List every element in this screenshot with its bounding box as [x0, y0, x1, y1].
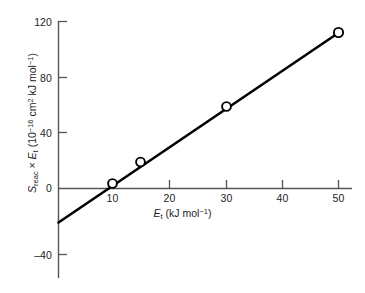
x-axis-title: Et (kJ mol−1)	[0, 207, 365, 221]
y-axis-times-sign: ×	[26, 159, 38, 171]
y-axis-units-exponent-16: −16	[26, 119, 35, 132]
data-point-marker	[334, 28, 343, 37]
y-axis-subscript-reac: reac	[31, 171, 40, 186]
y-axis-units-open: (10	[26, 132, 38, 150]
y-axis-symbol-e: E	[26, 152, 38, 159]
plot-canvas	[0, 0, 365, 293]
data-point-marker	[222, 102, 231, 111]
y-axis-subscript-t: t	[31, 150, 40, 152]
y-axis-symbol-s: S	[26, 186, 38, 193]
y-axis-units-exponent-minus1: −1	[26, 57, 35, 66]
x-axis-symbol: E	[154, 207, 161, 219]
x-tick-label-40: 40	[262, 192, 303, 204]
y-axis-title: Sreac × Et (10−16 cm2 kJ mol−1)	[22, 8, 42, 238]
y-axis-units-kjmol: kJ mol	[26, 65, 38, 98]
x-tick-label-10: 10	[92, 192, 133, 204]
x-tick-label-20: 20	[149, 192, 190, 204]
x-axis-units-exponent: −1	[199, 207, 208, 216]
x-tick-label-30: 30	[206, 192, 247, 204]
data-point-marker	[108, 179, 117, 188]
y-axis-units-cm: cm	[26, 103, 38, 120]
x-axis-units-close: )	[208, 207, 212, 219]
y-axis-units-close: )	[26, 53, 38, 57]
y-axis-units-exponent-2: 2	[26, 98, 35, 102]
x-tick-label-50: 50	[318, 192, 359, 204]
y-tick-label-minus40: –40	[12, 249, 52, 261]
x-tick-marks	[113, 180, 339, 189]
data-point-marker	[136, 158, 145, 167]
figure-container: 120 80 40 0 –40 10 20 30 40 50 Et (kJ mo…	[0, 0, 365, 293]
data-point-markers	[108, 28, 343, 188]
x-axis-units-open: (kJ mol	[163, 207, 200, 219]
y-axis-title-text: Sreac × Et (10−16 cm2 kJ mol−1)	[26, 53, 38, 193]
